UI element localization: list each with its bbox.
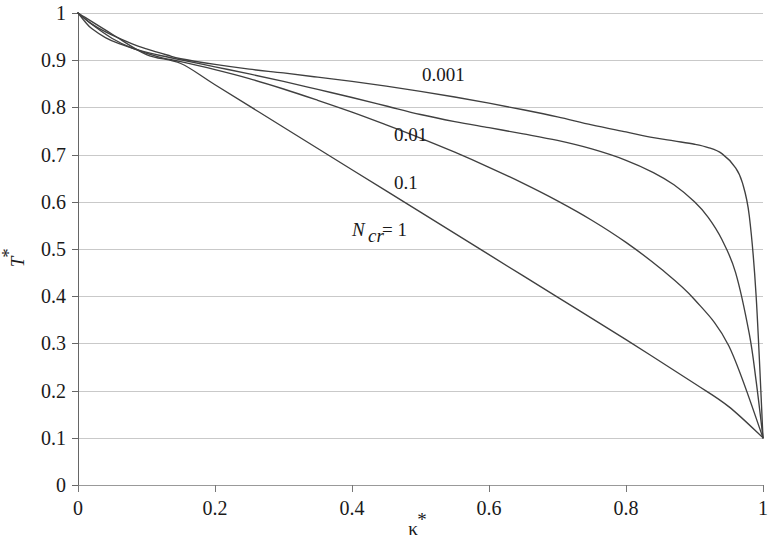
- x-tick-label: 0.4: [340, 497, 365, 519]
- chart-background: [0, 0, 770, 552]
- y-tick-label: 1: [56, 2, 66, 24]
- x-tick-label: 0.8: [614, 497, 639, 519]
- y-tick-label: 0: [56, 474, 66, 496]
- y-axis-title-star: *: [0, 248, 19, 258]
- x-axis-title-star: *: [417, 509, 427, 530]
- y-tick-label: 0.2: [41, 380, 66, 402]
- x-tick-label: 0.2: [203, 497, 228, 519]
- x-tick-label: 0: [73, 497, 83, 519]
- x-tick-label: 1: [758, 497, 768, 519]
- chart-figure: 00.10.20.30.40.50.60.70.80.91 00.20.40.6…: [0, 0, 770, 552]
- x-tick-label: 0.6: [477, 497, 502, 519]
- y-tick-label: 0.3: [41, 332, 66, 354]
- curve-label-0-1: 0.1: [394, 172, 418, 193]
- curve-label-0-01: 0.01: [394, 124, 427, 145]
- curve-label-ncr-base: N: [351, 219, 366, 240]
- y-tick-label: 0.1: [41, 427, 66, 449]
- y-tick-label: 0.8: [41, 96, 66, 118]
- curve-label-0-001: 0.001: [422, 64, 465, 85]
- y-tick-label: 0.6: [41, 191, 66, 213]
- y-tick-label: 0.5: [41, 238, 66, 260]
- y-tick-label: 0.7: [41, 144, 66, 166]
- curve-label-ncr-equals: = 1: [382, 219, 407, 240]
- y-tick-label: 0.4: [41, 285, 66, 307]
- y-tick-label: 0.9: [41, 49, 66, 71]
- line-chart: 00.10.20.30.40.50.60.70.80.91 00.20.40.6…: [0, 0, 770, 552]
